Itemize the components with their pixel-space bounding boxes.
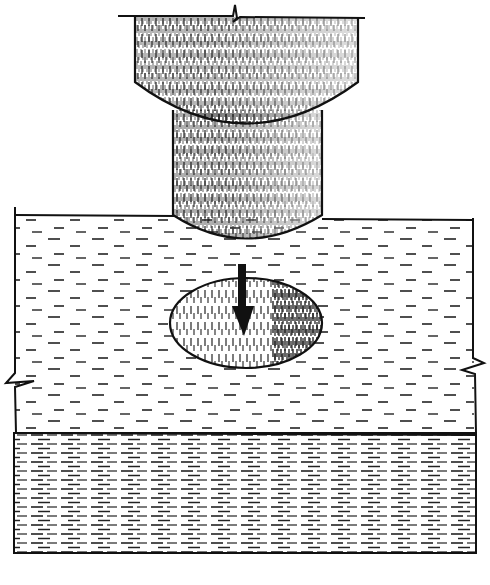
illustration — [0, 0, 490, 585]
lower-layer — [14, 433, 476, 553]
drawing-canvas — [0, 0, 490, 585]
plug-shank — [173, 110, 322, 239]
plug-cap — [118, 5, 365, 124]
